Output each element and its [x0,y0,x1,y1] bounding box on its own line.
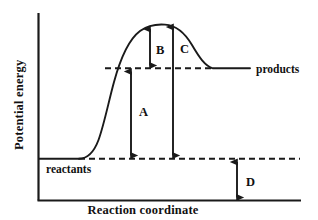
energy-diagram-canvas: Potential energy Reaction coordinate rea… [0,0,318,220]
products-label: products [256,63,300,76]
reaction-profile-curve [79,24,250,158]
marker-label-b: B [156,43,164,57]
marker-label-a: A [139,105,148,119]
marker-label-c: C [180,42,189,56]
energy-diagram: Potential energy Reaction coordinate rea… [0,0,318,220]
marker-label-d: D [246,175,255,189]
reactants-label: reactants [46,163,92,175]
x-axis-title: Reaction coordinate [87,203,198,217]
y-axis-title: Potential energy [12,59,26,150]
